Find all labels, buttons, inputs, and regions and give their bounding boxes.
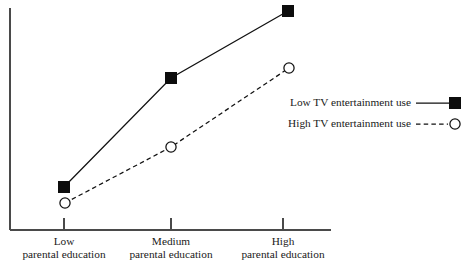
legend-sample-high-tv-use <box>416 117 462 131</box>
data-point-high-tv-medium-edu <box>166 142 176 152</box>
x-axis-label-medium-line1: Medium <box>111 235 231 248</box>
x-axis-label-high-line2: parental education <box>223 248 343 261</box>
series-line-low-tv-use <box>64 11 288 187</box>
data-point-low-tv-medium-edu <box>166 73 177 84</box>
x-axis-label-medium: Medium parental education <box>111 235 231 261</box>
legend-entry-high-tv-use: High TV entertainment use <box>282 113 462 134</box>
chart-legend: Low TV entertainment use High TV enterta… <box>282 92 462 134</box>
x-axis-label-high-line1: High <box>223 235 343 248</box>
data-point-low-tv-high-edu <box>283 6 294 17</box>
x-axis-label-low-line1: Low <box>4 235 124 248</box>
x-axis-label-low-line2: parental education <box>4 248 124 261</box>
data-point-high-tv-high-edu <box>284 63 294 73</box>
x-axis-label-medium-line2: parental education <box>111 248 231 261</box>
data-point-high-tv-low-edu <box>60 198 70 208</box>
legend-entry-low-tv-use: Low TV entertainment use <box>282 92 462 113</box>
x-axis-label-high: High parental education <box>223 235 343 261</box>
interaction-line-chart: Low parental education Medium parental e… <box>0 0 468 272</box>
open-circle-icon <box>450 118 460 128</box>
legend-label-low-tv-use: Low TV entertainment use <box>290 96 411 109</box>
x-axis-label-low: Low parental education <box>4 235 124 261</box>
data-point-low-tv-low-edu <box>59 182 70 193</box>
filled-square-icon <box>450 97 461 108</box>
legend-label-high-tv-use: High TV entertainment use <box>288 117 411 130</box>
legend-sample-low-tv-use <box>416 96 462 110</box>
chart-plot-area <box>0 0 468 272</box>
series-line-high-tv-use <box>65 68 289 203</box>
